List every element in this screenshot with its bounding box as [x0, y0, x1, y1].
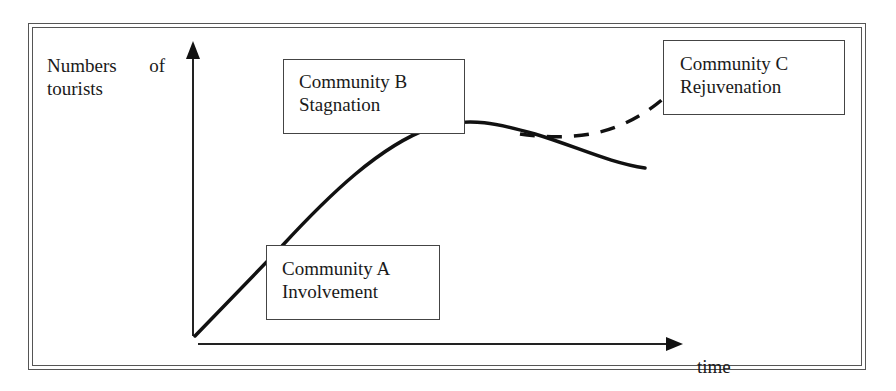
- stage-box-rejuvenation: Community C Rejuvenation: [663, 40, 845, 115]
- stage-community: Community B: [299, 70, 464, 93]
- y-axis-arrow-icon: [186, 41, 200, 59]
- rejuvenation-curve-dashed: [520, 98, 664, 137]
- y-axis-label-line2: tourists: [47, 77, 165, 100]
- y-axis-label-word: Numbers: [47, 54, 117, 77]
- y-axis-label-word: of: [149, 54, 165, 77]
- stage-box-stagnation: Community B Stagnation: [283, 59, 465, 134]
- x-axis-arrow-icon: [666, 337, 683, 351]
- stage-box-involvement: Community A Involvement: [266, 245, 440, 320]
- stage-community: Community A: [282, 257, 439, 280]
- y-axis: [186, 41, 200, 336]
- stage-name: Rejuvenation: [680, 75, 844, 98]
- stage-community: Community C: [680, 52, 844, 75]
- stage-name: Involvement: [282, 280, 439, 303]
- x-axis-label: time: [697, 355, 731, 378]
- y-axis-label: Numbersof tourists: [47, 54, 165, 100]
- x-axis: [198, 337, 683, 351]
- stage-name: Stagnation: [299, 93, 464, 116]
